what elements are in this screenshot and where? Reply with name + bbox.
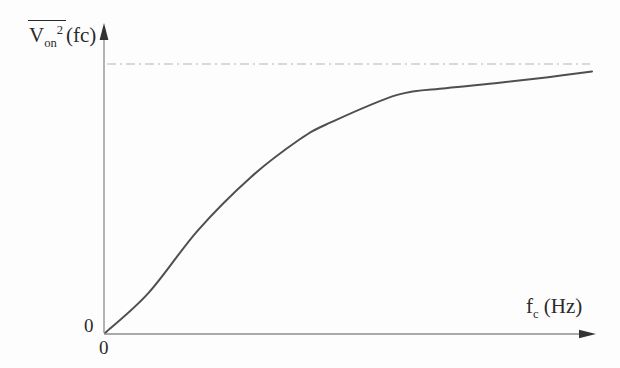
response-curve — [105, 72, 592, 334]
x-label-unit: (Hz) — [539, 294, 583, 318]
x-label-symbol: f — [526, 294, 533, 318]
y-label-symbol: V — [29, 23, 44, 47]
x-axis-arrowhead-icon — [579, 330, 596, 338]
y-axis-arrowhead-icon — [100, 23, 109, 40]
y-axis-label: Von2(fc) — [28, 20, 96, 48]
y-label-superscript: 2 — [57, 23, 63, 37]
y-axis-label-overlined-part: Von2 — [28, 20, 66, 48]
origin-label-x: 0 — [99, 337, 109, 359]
x-axis-label: fc (Hz) — [526, 294, 582, 319]
y-label-subscript: on — [44, 36, 57, 50]
origin-label-y: 0 — [84, 315, 94, 337]
figure-page: { "labels": { "y_base": "V", "y_sub": "o… — [0, 0, 620, 368]
y-label-argument: (fc) — [66, 23, 96, 47]
